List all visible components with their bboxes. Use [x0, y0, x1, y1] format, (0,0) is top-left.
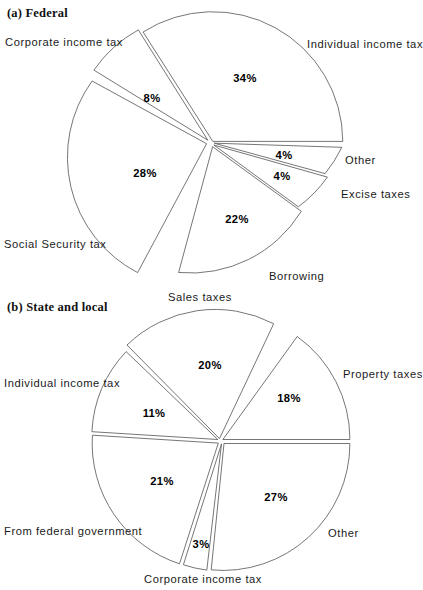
value-sales-taxes-state-local: 20%: [198, 359, 221, 371]
value-other-federal: 4%: [276, 149, 293, 161]
label-social-security-tax-federal: Social Security tax: [4, 238, 106, 250]
panel-a-title: (a) Federal: [7, 6, 68, 21]
label-sales-taxes-state-local: Sales taxes: [168, 291, 232, 303]
value-social-security-tax-federal: 28%: [133, 167, 156, 179]
label-other-state-local: Other: [328, 527, 359, 539]
value-other-state-local: 27%: [264, 491, 287, 503]
value-individual-income-tax-federal: 34%: [233, 72, 256, 84]
label-borrowing-federal: Borrowing: [269, 270, 324, 282]
label-corporate-income-tax-federal: Corporate income tax: [5, 36, 123, 48]
value-from-federal-government-state-local: 21%: [150, 475, 173, 487]
pie-federal: [67, 12, 342, 273]
label-excise-taxes-federal: Excise taxes: [341, 188, 410, 200]
value-individual-income-tax-state-local: 11%: [143, 407, 166, 419]
label-individual-income-tax-state-local: Individual income tax: [4, 377, 120, 389]
label-property-taxes-state-local: Property taxes: [343, 368, 423, 380]
label-individual-income-tax-federal: Individual income tax: [307, 38, 423, 50]
value-property-taxes-state-local: 18%: [277, 392, 300, 404]
value-corporate-income-tax-state-local: 3%: [193, 538, 210, 550]
value-borrowing-federal: 22%: [225, 213, 248, 225]
label-from-federal-government-state-local: From federal government: [4, 525, 142, 537]
label-other-federal: Other: [345, 154, 376, 166]
panel-b-title: (b) State and local: [7, 300, 108, 315]
slice-other-state-local[interactable]: [211, 444, 350, 571]
value-corporate-income-tax-federal: 8%: [144, 92, 161, 104]
label-corporate-income-tax-state-local: Corporate income tax: [144, 573, 262, 585]
value-excise-taxes-federal: 4%: [274, 170, 291, 182]
